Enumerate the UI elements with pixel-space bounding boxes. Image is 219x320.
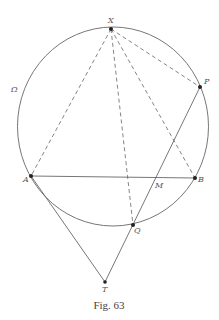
label-A: A [22,175,29,184]
label-omega: Ω [10,85,18,94]
point-P [198,85,202,89]
label-T: T [102,285,108,294]
point-A [29,174,33,178]
point-B [193,176,197,180]
point-T [103,280,107,284]
label-B: B [197,175,204,184]
segment-XB [111,29,195,178]
label-M: M [154,181,164,190]
segment-XQ [111,29,133,225]
segment-AT [31,176,105,282]
segment-AB [31,176,195,178]
geometry-figure: X P A B M Q T Ω Fig. 63 [0,0,219,320]
figure-caption: Fig. 63 [93,299,125,311]
point-X [109,27,113,31]
segment-XA [31,29,111,176]
label-P: P [203,77,210,86]
label-Q: Q [134,226,141,235]
label-X: X [107,16,114,25]
circle-omega [18,27,209,226]
segment-TP [105,87,200,282]
